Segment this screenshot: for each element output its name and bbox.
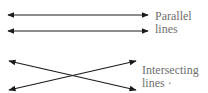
intersecting-lines-label: Intersecting lines · [142, 64, 199, 90]
parallel-lines-label: Parallel lines [155, 10, 192, 36]
intersecting-lines [9, 61, 136, 90]
parallel-label-line2: lines [155, 23, 192, 36]
parallel-lines [8, 15, 148, 31]
intersecting-label-line2: lines · [142, 77, 199, 90]
